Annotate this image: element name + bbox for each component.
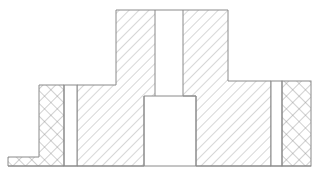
left-body <box>77 10 155 166</box>
left-gap <box>64 85 77 166</box>
right-insulation <box>282 81 311 166</box>
right-gap <box>271 81 282 166</box>
left-insulation <box>8 85 64 166</box>
cross-section-drawing <box>0 0 321 175</box>
